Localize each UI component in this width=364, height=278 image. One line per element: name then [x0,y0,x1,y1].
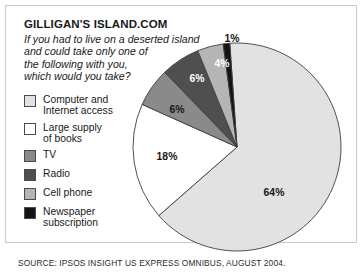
question-line-1: If you had to live on a deserted island [24,33,209,45]
legend-swatch-icon [24,188,36,200]
chart-frame: GILLIGAN'S ISLAND.COM If you had to live… [5,5,357,243]
legend-item-label: TV [43,149,56,160]
legend-swatch-icon [24,207,36,219]
legend-item-newspaper-subscription: Newspaper subscription [24,206,154,229]
legend-label-line-1: Computer and [43,94,113,105]
chart-legend: Computer and Internet access Large suppl… [24,94,154,234]
legend-label-line-2: Internet access [43,105,113,116]
legend-item-label: Large supply of books [43,122,102,145]
legend-item-label: Radio [43,168,70,179]
legend-swatch-icon [24,169,36,181]
legend-swatch-icon [24,150,36,162]
source-note: SOURCE: IPSOS INSIGHT US EXPRESS OMNIBUS… [18,258,285,268]
legend-item-tv: TV [24,149,154,163]
legend-label-line-1: Cell phone [43,187,92,198]
legend-item-radio: Radio [24,168,154,182]
question-line-3: the following with you, [24,58,209,70]
legend-item-cell-phone: Cell phone [24,187,154,201]
legend-swatch-icon [24,123,36,135]
legend-item-label: Cell phone [43,187,92,198]
legend-label-line-2: subscription [43,217,98,228]
legend-item-label: Newspaper subscription [43,206,98,229]
legend-item-large-supply-of-books: Large supply of books [24,122,154,145]
legend-item-computer-and-internet-access: Computer and Internet access [24,94,154,117]
question-line-2: and could take only one of [24,45,209,57]
legend-label-line-1: Newspaper [43,206,98,217]
legend-swatch-icon [24,95,36,107]
chart-question: If you had to live on a deserted island … [24,33,209,83]
legend-label-line-2: of books [43,133,102,144]
legend-label-line-1: Radio [43,168,70,179]
page-title: GILLIGAN'S ISLAND.COM [24,18,167,30]
question-line-4: which would you take? [24,70,209,82]
legend-item-label: Computer and Internet access [43,94,113,117]
legend-label-line-1: Large supply [43,122,102,133]
legend-label-line-1: TV [43,149,56,160]
